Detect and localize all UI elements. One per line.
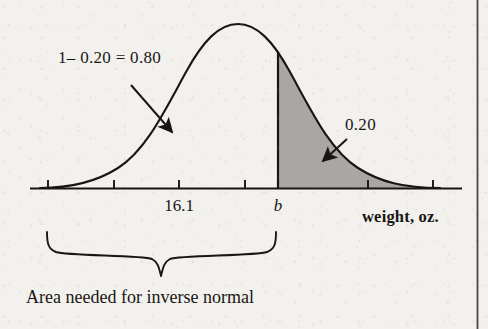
curly-brace-icon [47, 232, 276, 276]
shaded-tail-region [278, 18, 448, 190]
normal-distribution-diagram: 1– 0.20 = 0.80 0.20 16.1 b weight, oz. A… [0, 0, 488, 329]
cutoff-tick-label: b [274, 196, 283, 215]
left-area-label: 1– 0.20 = 0.80 [58, 48, 161, 67]
right-area-label: 0.20 [345, 115, 376, 134]
x-axis-title: weight, oz. [362, 207, 439, 226]
figure-root: 1– 0.20 = 0.80 0.20 16.1 b weight, oz. A… [0, 0, 488, 329]
mean-tick-label: 16.1 [164, 196, 194, 215]
brace-caption: Area needed for inverse normal [26, 287, 254, 307]
